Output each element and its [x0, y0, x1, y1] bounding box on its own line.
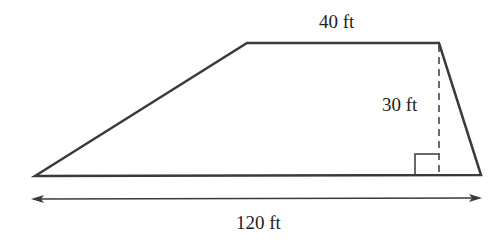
- right-angle-marker: [415, 154, 439, 175]
- width-dimension-line: [36, 198, 478, 199]
- bottom-base-label: 120 ft: [236, 212, 281, 234]
- height-label: 30 ft: [382, 94, 417, 116]
- top-base-label: 40 ft: [319, 11, 354, 33]
